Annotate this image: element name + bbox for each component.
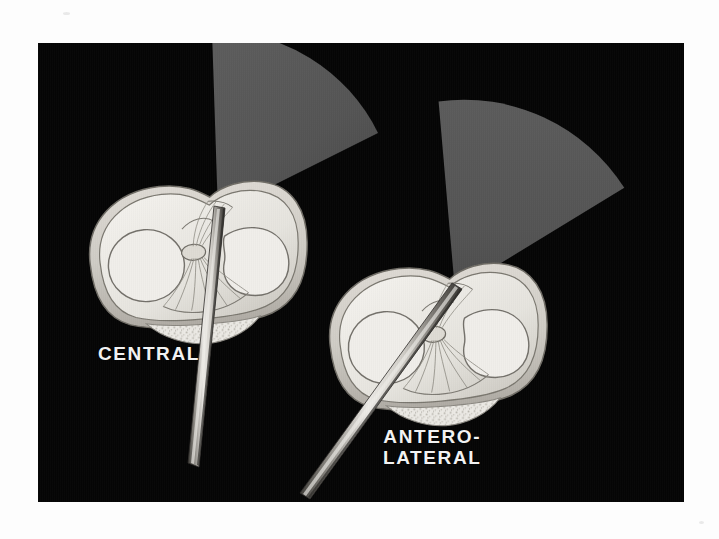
knee-anatomy-anterolateral [325, 258, 554, 433]
knee-anatomy-central [85, 176, 314, 351]
page-speck [699, 521, 704, 524]
panel-central [85, 43, 378, 467]
illustration-canvas [38, 43, 684, 502]
label-anterolateral: ANTERO-LATERAL [383, 426, 481, 469]
label-anterolateral-line2: LATERAL [383, 447, 481, 468]
illustration-plate: CENTRAL ANTERO-LATERAL [38, 43, 684, 502]
label-central: CENTRAL [98, 343, 200, 364]
figure-root: CENTRAL ANTERO-LATERAL [0, 0, 719, 539]
page-speck [63, 12, 70, 15]
label-anterolateral-line1: ANTERO- [383, 426, 481, 447]
